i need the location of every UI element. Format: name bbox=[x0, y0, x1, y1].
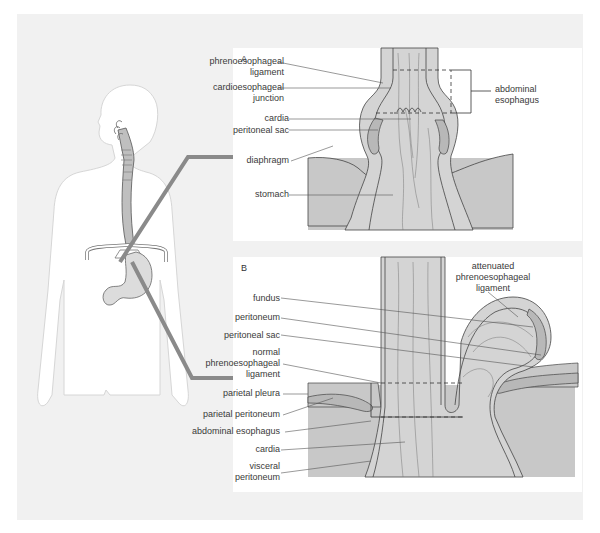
label-cardia: cardia bbox=[264, 113, 289, 124]
panel-b: B attenuated phrenoesophageal ligament bbox=[233, 257, 582, 492]
label-cardioesophageal-junction: cardioesophageal junction bbox=[213, 82, 284, 104]
label-attenuated-phrenoesophageal-ligament: attenuated phrenoesophageal ligament bbox=[443, 261, 543, 294]
label-normal-phrenoesophageal-ligament: normal phrenoesophageal ligament bbox=[205, 347, 280, 380]
label-abdominal-esophagus: abdominal esophagus bbox=[495, 84, 539, 106]
label-parietal-peritoneum: parietal peritoneum bbox=[203, 409, 280, 420]
label-diaphragm: diaphragm bbox=[246, 155, 289, 166]
label-abdominal-esophagus: abdominal esophagus bbox=[192, 426, 280, 437]
label-parietal-pleura: parietal pleura bbox=[223, 388, 280, 399]
panel-a: A phrenoesophageal ligament cardioesopha… bbox=[233, 48, 582, 241]
panel-a-diagram bbox=[233, 48, 582, 241]
label-peritoneal-sac: peritoneal sac bbox=[233, 125, 289, 136]
label-visceral-peritoneum: visceral peritoneum bbox=[235, 461, 280, 483]
label-phrenoesophageal-ligament: phrenoesophageal ligament bbox=[209, 56, 284, 78]
label-peritoneal-sac: peritoneal sac bbox=[224, 330, 280, 341]
label-fundus: fundus bbox=[253, 293, 280, 304]
label-cardia: cardia bbox=[255, 444, 280, 455]
label-stomach: stomach bbox=[255, 189, 289, 200]
label-peritoneum: peritoneum bbox=[235, 312, 280, 323]
